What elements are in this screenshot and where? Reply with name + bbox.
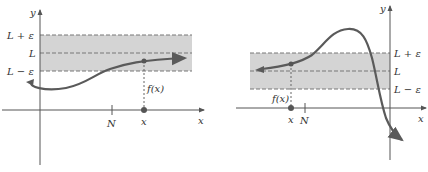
left-arrowhead [26,79,34,86]
left-panel: y x L + ε L L − ε N f(x) x [2,7,204,165]
curve-point [142,59,147,64]
upper-bound-label: L + ε [393,48,421,59]
upper-bound-label: L + ε [6,30,34,41]
lower-bound-label: L − ε [6,66,34,77]
fx-label: f(x) [271,93,289,104]
x-point [141,107,147,113]
curve-point [289,62,294,67]
x-axis-label: x [418,113,424,124]
limit-at-infinity-diagram: y x L + ε L L − ε N f(x) x y x L + ε L L [0,0,428,172]
n-label: N [106,118,117,129]
n-label: N [299,115,310,126]
x-point [288,105,294,111]
y-axis-label: y [379,3,386,14]
limit-label: L [28,48,36,59]
right-panel: y x L + ε L L − ε N f(x) x [236,3,426,160]
limit-label: L [393,66,401,77]
x-point-label: x [141,116,147,127]
fx-label: f(x) [146,83,164,94]
x-axis-label: x [198,115,204,126]
x-point-label: x [288,114,294,125]
lower-bound-label: L − ε [393,84,421,95]
y-axis-label: y [29,7,36,18]
